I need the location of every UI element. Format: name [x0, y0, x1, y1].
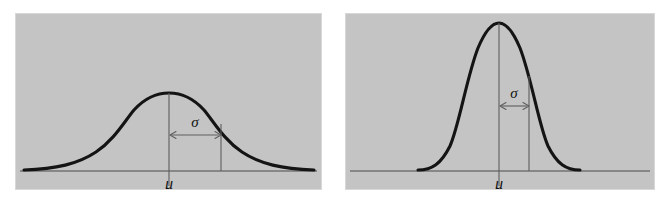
normal-distribution-figure: σ μ σ μ [0, 0, 669, 202]
chart-svg-small-sigma: σ μ [346, 14, 654, 189]
mu-label: μ [164, 175, 173, 189]
panel-normal-curve-large-sigma: σ μ [15, 13, 322, 190]
panel-normal-curve-small-sigma: σ μ [345, 13, 655, 190]
chart-svg-large-sigma: σ μ [16, 14, 321, 189]
sigma-label: σ [191, 114, 199, 130]
sigma-label: σ [510, 85, 518, 101]
mu-label: μ [494, 175, 503, 189]
